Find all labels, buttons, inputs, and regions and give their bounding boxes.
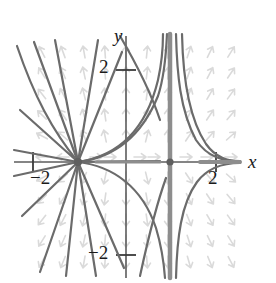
y-axis-label: y xyxy=(114,26,122,45)
saddle-point xyxy=(166,158,173,165)
y-tick-label-neg2: −2 xyxy=(88,243,108,262)
trajectory-ray xyxy=(78,40,98,162)
direction-field-arrows xyxy=(35,45,238,269)
trajectory-curve xyxy=(182,34,240,162)
phase-portrait-figure: y x 2 −2 −2 2 xyxy=(0,0,276,283)
y-tick-label-2: 2 xyxy=(99,57,109,76)
star-node-point xyxy=(74,158,82,166)
trajectory-curve xyxy=(140,178,166,276)
phase-portrait-canvas xyxy=(0,0,276,283)
x-tick-label-neg2: −2 xyxy=(30,168,50,187)
trajectory-curve xyxy=(17,46,78,162)
trajectory-ray xyxy=(14,150,78,162)
x-tick-label-2: 2 xyxy=(208,168,218,187)
x-axis-label: x xyxy=(248,152,256,171)
